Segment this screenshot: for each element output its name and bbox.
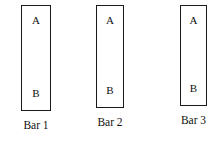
bar-2-caption: Bar 2 xyxy=(97,116,122,129)
bar-1-segment-b-label: B xyxy=(22,88,50,99)
bar-3-segment-a-label: A xyxy=(181,15,206,26)
bar-1-caption: Bar 1 xyxy=(23,119,48,132)
bar-3-caption: Bar 3 xyxy=(181,114,206,127)
bar-2-segment-a-label: A xyxy=(97,15,123,26)
bar-rect-3[interactable]: A B xyxy=(180,5,207,106)
bar-3-segment-b-label: B xyxy=(181,83,206,94)
bar-1-segment-a-label: A xyxy=(22,15,50,26)
bar-2-segment-b-label: B xyxy=(97,85,123,96)
bar-rect-2[interactable]: A B xyxy=(96,5,124,108)
bar-diagram: A B Bar 1 A B Bar 2 A B Bar 3 xyxy=(0,0,219,143)
bar-rect-1[interactable]: A B xyxy=(21,5,51,111)
